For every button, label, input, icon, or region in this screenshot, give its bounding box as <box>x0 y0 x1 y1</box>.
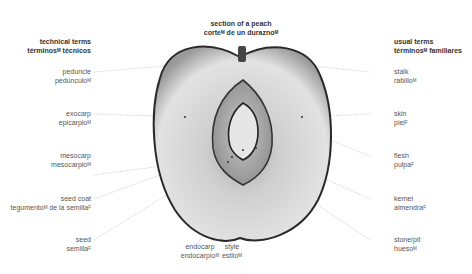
technical-terms-header: technical terms términosM técnicos <box>27 38 91 55</box>
label-skin: skinpielF <box>394 110 408 127</box>
diagram-title: section of a peach corteM de un duraznoM <box>196 20 286 37</box>
label-mesocarp: mesocarpmesocarpioM <box>51 152 91 169</box>
peach-stalk <box>238 46 246 62</box>
label-stone-pit: stone/pithuesoM <box>394 236 420 253</box>
label-flesh: fleshpulpaF <box>394 152 414 169</box>
label-peduncle: pedunclepedúnculoM <box>55 68 91 85</box>
label-kernel: kernelalmendraF <box>394 195 426 212</box>
label-seed: seedsemillaF <box>66 236 91 253</box>
peach-section-diagram: section of a peach corteM de un duraznoM… <box>0 0 472 274</box>
label-seed-coat: seed coattegumentoM de la semillaF <box>11 195 91 212</box>
label-stalk: stalkrabilloM <box>394 68 416 85</box>
usual-terms-header: usual terms términosM familiares <box>394 38 462 55</box>
label-style: styleestiloM <box>218 243 246 260</box>
label-exocarp: exocarpepicarpioM <box>59 110 91 127</box>
label-endocarp: endocarpendocarpioM <box>178 243 222 260</box>
